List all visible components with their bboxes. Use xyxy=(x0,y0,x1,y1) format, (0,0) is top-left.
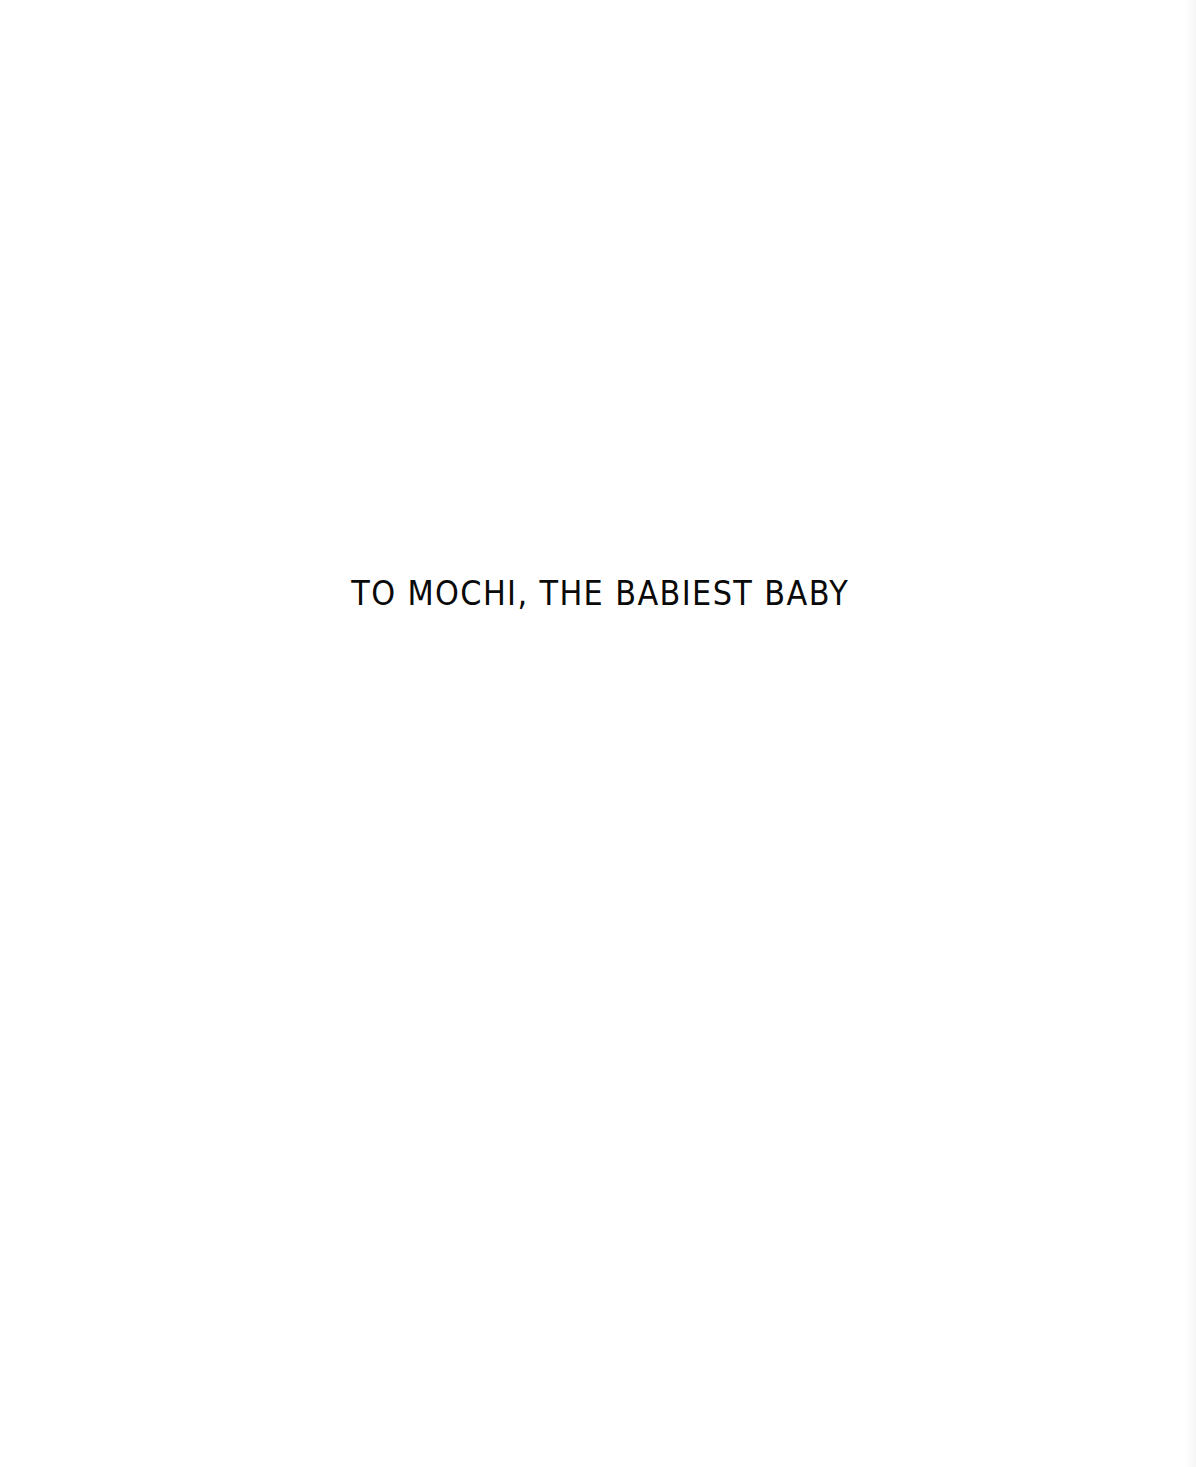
page-edge-shadow xyxy=(1184,0,1196,1467)
dedication-text: TO MOCHI, THE BABIEST BABY xyxy=(50,572,1150,616)
book-page: TO MOCHI, THE BABIEST BABY xyxy=(0,0,1196,1467)
